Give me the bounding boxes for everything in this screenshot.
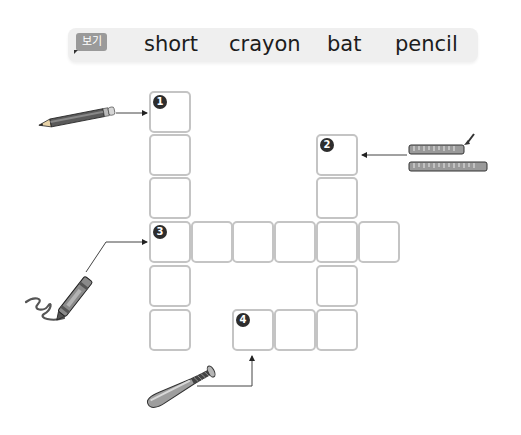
short-ruler-icon bbox=[406, 132, 490, 176]
crayon-icon bbox=[22, 268, 102, 328]
pencil-icon bbox=[34, 104, 118, 130]
clue-arrows bbox=[0, 0, 521, 435]
bat-icon bbox=[142, 364, 224, 410]
